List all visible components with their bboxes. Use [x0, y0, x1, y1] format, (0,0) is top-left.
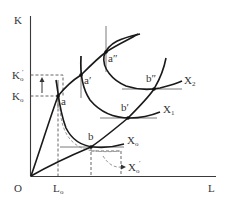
- svg-text:o: o: [135, 140, 139, 148]
- point-a-double-prime-label: a″: [108, 52, 117, 64]
- svg-text:K: K: [12, 69, 20, 81]
- svg-text:o: o: [136, 167, 140, 175]
- svg-text:o: o: [20, 96, 24, 104]
- point-b-prime-label: b′: [121, 101, 129, 113]
- svg-text:X: X: [128, 161, 136, 173]
- isoquant-diagram: K L O K o K o ′ L o: [0, 0, 228, 205]
- point-b-double-prime-label: b″: [146, 72, 156, 84]
- isoquant-x0-label: X o: [127, 134, 139, 148]
- point-b-label: b: [88, 130, 94, 142]
- svg-text:X: X: [163, 103, 171, 115]
- svg-text:K: K: [12, 90, 20, 102]
- point-a-prime-label: a′: [84, 74, 91, 86]
- point-b: [89, 145, 93, 149]
- x0-prime-arrow-path: [103, 156, 122, 167]
- svg-text:X: X: [184, 74, 192, 86]
- l0-tick-label: L o: [53, 182, 64, 196]
- svg-text:2: 2: [192, 80, 196, 88]
- isoquant-x2-label: X 2: [184, 74, 196, 88]
- origin-label: O: [14, 182, 22, 194]
- k0-tick-label: K o: [12, 90, 24, 104]
- k-axis-label: K: [14, 14, 22, 26]
- svg-text:L: L: [53, 182, 60, 194]
- svg-text:X: X: [127, 134, 135, 146]
- l-axis-label: L: [208, 182, 215, 194]
- svg-text:′: ′: [22, 68, 24, 76]
- point-b-double-prime: [152, 87, 156, 91]
- k0-prime-tick-label: K o ′: [12, 68, 24, 83]
- x0-prime-guide-line: [91, 151, 121, 176]
- svg-text:o: o: [60, 188, 64, 196]
- svg-text:1: 1: [171, 109, 175, 117]
- point-b-prime: [126, 116, 130, 120]
- svg-text:′: ′: [139, 159, 141, 167]
- point-a-label: a: [61, 95, 66, 107]
- up-arrow-icon: [40, 77, 45, 93]
- svg-text:o: o: [20, 75, 24, 83]
- isoquant-x1-label: X 1: [163, 103, 175, 117]
- x0-prime-arrow-head: [121, 165, 126, 170]
- point-a: [56, 94, 60, 98]
- point-a-prime: [79, 73, 83, 77]
- isoquant-x0-prime-label: X o ′: [128, 159, 141, 175]
